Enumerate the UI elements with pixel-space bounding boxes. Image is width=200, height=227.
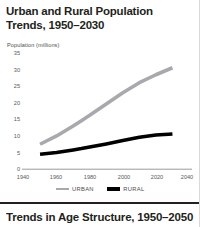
x-tick-1980: 1980 [84,174,96,180]
x-axis-tick-labels: 1940 1960 1980 2000 2020 2040 [0,171,200,183]
next-section-title: Trends in Age Structure, 1950–2050 [6,211,196,225]
y-axis-caption: Population (millions) [7,42,59,48]
section-divider [0,202,200,204]
urban-series-line [40,68,172,144]
line-chart-svg [0,50,200,185]
figure-page: Urban and Rural Population Trends, 1950–… [0,0,200,227]
rural-line-swatch-icon [107,187,120,190]
x-tick-2040: 2040 [181,174,193,180]
x-tick-2020: 2020 [151,174,163,180]
x-tick-1960: 1960 [50,174,62,180]
legend-item-rural: RURAL [107,186,145,192]
page-right-edge [199,0,200,227]
page-title: Urban and Rural Population Trends, 1950–… [6,5,192,32]
rural-series-line [40,134,172,154]
legend-label-rural: RURAL [123,186,144,192]
x-tick-1940: 1940 [17,174,29,180]
urban-line-swatch-icon [56,188,69,191]
x-tick-2000: 2000 [118,174,130,180]
legend-label-urban: URBAN [72,186,94,192]
chart-legend: URBAN RURAL [0,186,200,192]
legend-item-urban: URBAN [56,186,94,192]
chart-plot-area: 35 30 25 20 15 10 5 0 1940 1960 1980 200… [0,50,200,185]
